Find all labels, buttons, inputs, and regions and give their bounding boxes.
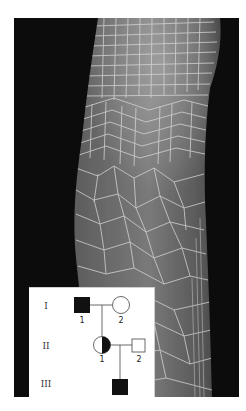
generation-label-I: I [44,301,48,311]
clinical-figure: I II III 1 2 1 2 1 [14,18,239,397]
pedigree-chart: I II III 1 2 1 2 1 [29,288,155,397]
individual-number: 2 [118,316,123,325]
individual-number: 1 [79,316,84,325]
carrier-half-fill [102,337,111,354]
individual-number: 2 [136,355,141,364]
generation-label-III: III [41,379,52,389]
individual-III-1-affected-male [112,379,128,395]
generation-label-II: II [42,341,50,351]
individual-I-1-affected-male [74,297,90,313]
individual-II-2-unaffected-male [132,339,145,352]
individual-I-2-unaffected-female [113,297,130,314]
pedigree-inset: I II III 1 2 1 2 1 [29,287,155,397]
individual-number: 1 [99,355,104,364]
